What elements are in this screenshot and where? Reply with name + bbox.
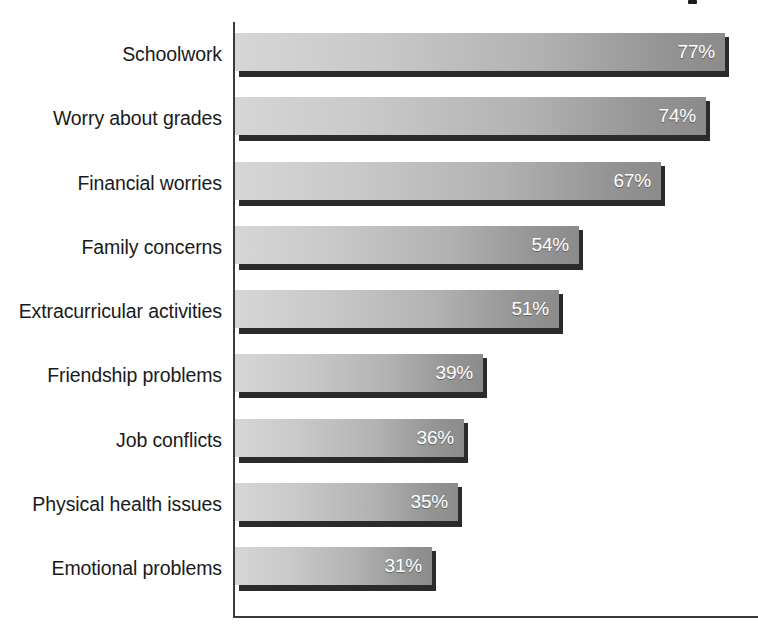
bar: 77% [235, 33, 725, 71]
bar-row: Physical health issues35% [0, 483, 758, 547]
bar-wrapper: 74% [235, 97, 706, 139]
bar-shadow-bottom [239, 521, 462, 527]
bar-wrapper: 54% [235, 226, 579, 268]
bar-value-label: 67% [614, 162, 651, 200]
bar-wrapper: 39% [235, 354, 483, 396]
bar: 74% [235, 97, 706, 135]
bar-row: Friendship problems39% [0, 354, 758, 418]
bar-value-label: 39% [436, 354, 473, 392]
bar-row: Family concerns54% [0, 226, 758, 290]
bar-wrapper: 35% [235, 483, 458, 525]
bar-shadow-bottom [239, 200, 665, 206]
bar-shadow-bottom [239, 264, 583, 270]
bar-shadow-bottom [239, 457, 468, 463]
bar-shadow-bottom [239, 135, 710, 141]
bar: 31% [235, 547, 432, 585]
bar: 51% [235, 290, 559, 328]
category-label: Worry about grades [53, 97, 222, 139]
bar-value-label: 35% [411, 483, 448, 521]
bar-value-label: 51% [512, 290, 549, 328]
bar: 35% [235, 483, 458, 521]
bar-wrapper: 36% [235, 419, 464, 461]
category-label: Job conflicts [116, 419, 222, 461]
category-label: Schoolwork [122, 33, 222, 75]
bar-value-label: 77% [678, 33, 715, 71]
bar-shadow-bottom [239, 585, 436, 591]
bar-shadow-bottom [239, 328, 563, 334]
bar-chart: Schoolwork77%Worry about grades74%Financ… [0, 0, 758, 634]
bar-row: Financial worries67% [0, 162, 758, 226]
bar-value-label: 31% [385, 547, 422, 585]
category-label: Emotional problems [51, 547, 222, 589]
cut-off-title [0, 0, 758, 11]
bar: 36% [235, 419, 464, 457]
cut-off-caption [233, 624, 758, 634]
bar-value-label: 36% [417, 419, 454, 457]
x-axis-line [233, 616, 758, 618]
bar-wrapper: 31% [235, 547, 432, 589]
bar-wrapper: 51% [235, 290, 559, 332]
bar-value-label: 54% [532, 226, 569, 264]
bar: 67% [235, 162, 661, 200]
category-label: Family concerns [82, 226, 222, 268]
bar: 39% [235, 354, 483, 392]
bar-shadow-bottom [239, 392, 487, 398]
bar-wrapper: 77% [235, 33, 725, 75]
category-label: Financial worries [77, 162, 222, 204]
bar-row: Job conflicts36% [0, 419, 758, 483]
bar-row: Emotional problems31% [0, 547, 758, 611]
bar-row: Extracurricular activities51% [0, 290, 758, 354]
bar-wrapper: 67% [235, 162, 661, 204]
bar-rows: Schoolwork77%Worry about grades74%Financ… [0, 33, 758, 612]
bar-shadow-bottom [239, 71, 729, 77]
category-label: Physical health issues [32, 483, 222, 525]
category-label: Friendship problems [47, 354, 222, 396]
title-descender-mark [688, 0, 697, 4]
bar-row: Worry about grades74% [0, 97, 758, 161]
bar-row: Schoolwork77% [0, 33, 758, 97]
category-label: Extracurricular activities [19, 290, 222, 332]
bar: 54% [235, 226, 579, 264]
bar-value-label: 74% [659, 97, 696, 135]
